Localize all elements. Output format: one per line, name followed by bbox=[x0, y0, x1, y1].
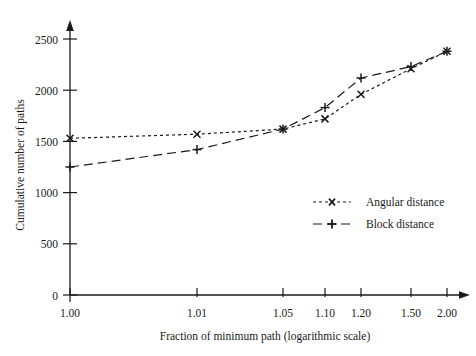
legend-entry-block-distance[interactable]: Block distance bbox=[313, 218, 434, 230]
y-tick-label-500: 500 bbox=[41, 238, 59, 250]
marker-x bbox=[194, 131, 201, 138]
series-block-distance bbox=[66, 47, 452, 172]
y-axis-tick-labels: 0 500 1000 1500 2000 2500 bbox=[35, 34, 58, 302]
x-tick-label-1-50: 1.50 bbox=[401, 307, 421, 319]
x-tick-label-1-20: 1.20 bbox=[351, 307, 371, 319]
x-axis-title: Fraction of minimum path (logarithmic sc… bbox=[160, 330, 371, 343]
legend-plus-icon bbox=[328, 220, 337, 229]
y-tick-label-2500: 2500 bbox=[35, 34, 58, 46]
marker-plus bbox=[66, 163, 75, 172]
y-tick-label-1000: 1000 bbox=[35, 187, 58, 199]
series-angular-distance-line bbox=[70, 51, 447, 138]
legend-x-icon bbox=[329, 199, 335, 206]
y-axis-arrowhead bbox=[66, 20, 74, 31]
series-block-distance-line bbox=[70, 51, 447, 167]
y-tick-label-0: 0 bbox=[52, 290, 58, 302]
marker-plus bbox=[407, 62, 416, 71]
series-block-distance-markers bbox=[66, 47, 452, 172]
x-tick-label-2-00: 2.00 bbox=[437, 307, 457, 319]
line-chart: 0 500 1000 1500 2000 2500 1.00 1.01 1.05… bbox=[0, 0, 476, 356]
series-angular-distance bbox=[67, 48, 451, 142]
y-tick-label-2000: 2000 bbox=[35, 85, 58, 97]
legend-label-block-distance: Block distance bbox=[366, 218, 434, 230]
marker-x bbox=[358, 91, 365, 98]
x-tick-label-1-00: 1.00 bbox=[60, 307, 80, 319]
x-tick-label-1-01: 1.01 bbox=[187, 307, 207, 319]
x-tick-label-1-10: 1.10 bbox=[315, 307, 335, 319]
legend-label-angular-distance: Angular distance bbox=[366, 196, 444, 209]
y-axis-title: Cumulative number of paths bbox=[14, 99, 27, 231]
x-tick-label-1-05: 1.05 bbox=[273, 307, 293, 319]
x-axis-arrowhead bbox=[459, 291, 470, 299]
marker-plus bbox=[357, 74, 366, 83]
x-axis-tick-labels: 1.00 1.01 1.05 1.10 1.20 1.50 2.00 bbox=[60, 307, 457, 319]
marker-plus bbox=[193, 145, 202, 154]
y-tick-label-1500: 1500 bbox=[35, 136, 58, 148]
series-angular-distance-markers bbox=[67, 48, 451, 142]
legend-entry-angular-distance[interactable]: Angular distance bbox=[313, 196, 444, 209]
chart-legend: Angular distance Block distance bbox=[313, 196, 444, 230]
chart-container: 0 500 1000 1500 2000 2500 1.00 1.01 1.05… bbox=[0, 0, 476, 356]
